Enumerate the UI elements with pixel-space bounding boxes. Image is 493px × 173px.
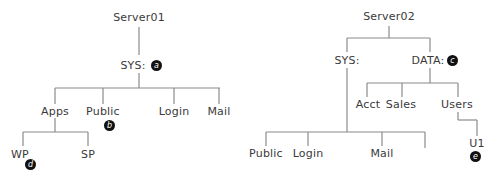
node-server02-public: Public [249, 148, 283, 160]
node-users: Users [441, 99, 473, 111]
node-acct: Acct [356, 99, 381, 111]
node-sales: Sales [386, 99, 416, 111]
badge-c-icon: c [447, 55, 458, 66]
node-public: Public [86, 106, 120, 118]
node-apps: Apps [41, 106, 69, 118]
node-server01-sys: SYS: [120, 60, 145, 72]
badge-e-icon: e [470, 151, 481, 162]
node-server02-sys: SYS: [334, 55, 359, 67]
node-login: Login [159, 106, 190, 118]
node-server02: Server02 [363, 11, 415, 23]
tree-connector-lines [0, 0, 493, 173]
node-server02-mail: Mail [370, 148, 393, 160]
node-sp: SP [81, 149, 95, 161]
node-mail: Mail [207, 106, 230, 118]
node-server01: Server01 [113, 12, 165, 24]
badge-a-icon: a [151, 60, 162, 71]
node-server02-login: Login [293, 148, 324, 160]
badge-b-icon: b [104, 120, 115, 131]
node-server02-data: DATA: [412, 55, 445, 67]
node-u1: U1 [469, 138, 484, 150]
badge-d-icon: d [25, 159, 36, 170]
